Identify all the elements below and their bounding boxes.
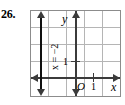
plot-line-x-equals-minus-2 xyxy=(40,18,42,89)
x-axis-arrow-left-icon xyxy=(31,74,38,82)
plot-line-arrow-down-icon xyxy=(37,89,45,96)
line-equation-label: x = −2 xyxy=(49,44,60,70)
origin-label: O xyxy=(77,81,85,92)
y-unit-tick-label: 1 xyxy=(63,57,68,67)
x-unit-tick-label: 1 xyxy=(91,82,96,92)
gridline-vertical xyxy=(102,11,103,96)
graph-figure: y x O 1 1 x = −2 xyxy=(30,10,121,97)
x-axis-label: x xyxy=(111,81,116,93)
plot-line-arrow-up-icon xyxy=(37,11,45,18)
y-axis-tick-1 xyxy=(71,61,80,62)
problem-number: 26. xyxy=(1,8,15,20)
y-axis-arrow-up-icon xyxy=(72,11,80,18)
y-axis-label: y xyxy=(62,13,67,25)
